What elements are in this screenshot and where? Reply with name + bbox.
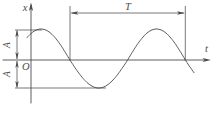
period-label: T: [125, 1, 132, 12]
wave-curve: [27, 29, 194, 88]
origin-label: O: [22, 61, 30, 72]
amplitude-upper-dimension: A: [2, 30, 19, 60]
period-dimension: T: [70, 1, 185, 62]
t-axis: t: [3, 43, 211, 62]
t-axis-label: t: [205, 43, 209, 54]
amplitude-lower-dimension: A: [2, 60, 19, 88]
oscillation-figure: t x O A A: [0, 0, 215, 113]
amplitude-upper-label: A: [2, 42, 12, 49]
x-axis-label: x: [22, 2, 28, 13]
oscillation-diagram-svg: t x O A A: [0, 0, 215, 113]
amplitude-lower-label: A: [2, 71, 12, 78]
